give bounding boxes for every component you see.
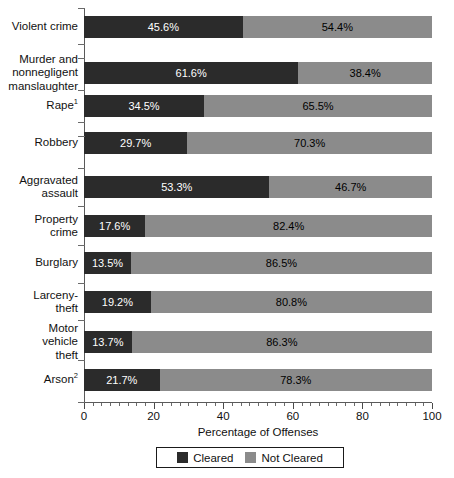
value-axis-minor-tick <box>284 403 285 406</box>
value-axis-minor-tick <box>328 403 329 406</box>
bar-segment-not-cleared: 86.5% <box>131 252 432 274</box>
legend-label-not-cleared: Not Cleared <box>261 452 322 464</box>
category-label-line: Arson2 <box>2 373 78 387</box>
value-axis-minor-tick <box>180 403 181 406</box>
category-label-line: theft <box>2 302 78 316</box>
bar-row: 17.6%82.4% <box>84 215 432 237</box>
bar-row: 34.5%65.5% <box>84 95 432 117</box>
category-label: Murder andnonnegligentmanslaughter <box>2 53 78 94</box>
value-axis-major-tick <box>293 403 294 409</box>
category-label-line: manslaughter <box>2 80 78 94</box>
bar-row: 53.3%46.7% <box>84 176 432 198</box>
value-axis-minor-tick <box>302 403 303 406</box>
bar-value-label-cleared: 45.6% <box>148 21 179 33</box>
category-label-line: Aggravated <box>2 174 78 188</box>
bar-value-label-not-cleared: 65.5% <box>302 100 333 112</box>
category-label: Burglary <box>2 256 78 270</box>
bar-value-label-cleared: 13.7% <box>92 336 123 348</box>
category-label: Propertycrime <box>2 213 78 240</box>
bar-segment-not-cleared: 86.3% <box>132 331 432 353</box>
bar-value-label-not-cleared: 86.5% <box>266 257 297 269</box>
value-axis-minor-tick <box>345 403 346 406</box>
bar-row: 19.2%80.8% <box>84 291 432 313</box>
legend-entry-cleared: Cleared <box>177 452 233 464</box>
value-axis-tick-label: 80 <box>356 410 369 422</box>
value-axis-minor-tick <box>354 403 355 406</box>
value-axis-minor-tick <box>136 403 137 406</box>
value-axis-minor-tick <box>93 403 94 406</box>
stacked-bar: 29.7%70.3% <box>84 132 432 154</box>
stacked-bar: 17.6%82.4% <box>84 215 432 237</box>
category-axis-tick <box>78 136 85 137</box>
bar-segment-cleared: 13.5% <box>84 252 131 274</box>
value-axis-minor-tick <box>197 403 198 406</box>
value-axis-minor-tick <box>267 403 268 406</box>
category-label-line: Murder and <box>2 53 78 67</box>
value-axis-major-tick <box>154 403 155 409</box>
bar-segment-not-cleared: 78.3% <box>160 369 432 391</box>
clearance-rate-chart: Violent crime45.6%54.4%Murder andnonnegl… <box>0 0 454 478</box>
category-label: Motorvehicletheft <box>2 322 78 363</box>
bar-segment-not-cleared: 65.5% <box>204 95 432 117</box>
bar-segment-not-cleared: 38.4% <box>298 62 432 84</box>
bar-value-label-not-cleared: 86.3% <box>266 336 297 348</box>
value-axis-minor-tick <box>110 403 111 406</box>
bar-segment-cleared: 17.6% <box>84 215 145 237</box>
value-axis-tick-label: 60 <box>286 410 299 422</box>
category-axis-tick <box>78 90 85 91</box>
legend-label-cleared: Cleared <box>193 452 233 464</box>
category-axis-tick <box>78 283 85 284</box>
category-label-line: vehicle <box>2 335 78 349</box>
bar-segment-not-cleared: 80.8% <box>151 291 432 313</box>
value-axis-minor-tick <box>423 403 424 406</box>
legend-entry-not-cleared: Not Cleared <box>245 452 322 464</box>
bar-value-label-not-cleared: 80.8% <box>276 296 307 308</box>
bar-segment-cleared: 21.7% <box>84 369 160 391</box>
value-axis-minor-tick <box>188 403 189 406</box>
stacked-bar: 53.3%46.7% <box>84 176 432 198</box>
bar-segment-not-cleared: 46.7% <box>269 176 432 198</box>
value-axis-minor-tick <box>162 403 163 406</box>
bar-value-label-cleared: 61.6% <box>176 67 207 79</box>
category-label-line: Robbery <box>2 136 78 150</box>
value-axis-minor-tick <box>258 403 259 406</box>
category-label-line: Larceny- <box>2 289 78 303</box>
bar-segment-cleared: 61.6% <box>84 62 298 84</box>
stacked-bar: 21.7%78.3% <box>84 369 432 391</box>
bar-value-label-not-cleared: 38.4% <box>350 67 381 79</box>
category-label: Violent crime <box>2 20 78 34</box>
bar-value-label-not-cleared: 82.4% <box>273 220 304 232</box>
bar-row: 13.7%86.3% <box>84 331 432 353</box>
category-axis-tick <box>78 320 85 321</box>
bar-row: 29.7%70.3% <box>84 132 432 154</box>
bar-value-label-cleared: 13.5% <box>92 257 123 269</box>
footnote-marker: 2 <box>74 371 78 380</box>
bar-value-label-cleared: 21.7% <box>106 374 137 386</box>
value-axis-major-tick <box>223 403 224 409</box>
category-label-line: nonnegligent <box>2 66 78 80</box>
square-dark-swatch <box>177 452 188 463</box>
category-label-line: Property <box>2 213 78 227</box>
value-axis-minor-tick <box>145 403 146 406</box>
value-axis-minor-tick <box>406 403 407 406</box>
category-label: Robbery <box>2 136 78 150</box>
bar-value-label-cleared: 34.5% <box>128 100 159 112</box>
bar-segment-not-cleared: 82.4% <box>145 215 432 237</box>
bar-value-label-not-cleared: 54.4% <box>322 21 353 33</box>
x-axis-title: Percentage of Offenses <box>84 426 432 438</box>
bar-segment-cleared: 45.6% <box>84 16 243 38</box>
value-axis-minor-tick <box>380 403 381 406</box>
value-axis-minor-tick <box>241 403 242 406</box>
value-axis-minor-tick <box>389 403 390 406</box>
category-label: Arson2 <box>2 373 78 387</box>
bar-value-label-cleared: 19.2% <box>102 296 133 308</box>
value-axis-minor-tick <box>415 403 416 406</box>
bar-row: 13.5%86.5% <box>84 252 432 274</box>
bar-row: 21.7%78.3% <box>84 369 432 391</box>
value-axis-minor-tick <box>206 403 207 406</box>
value-axis-tick-label: 20 <box>147 410 160 422</box>
value-axis-minor-tick <box>128 403 129 406</box>
stacked-bar: 61.6%38.4% <box>84 62 432 84</box>
category-label-line: Violent crime <box>2 20 78 34</box>
value-axis-tick-label: 0 <box>81 410 87 422</box>
